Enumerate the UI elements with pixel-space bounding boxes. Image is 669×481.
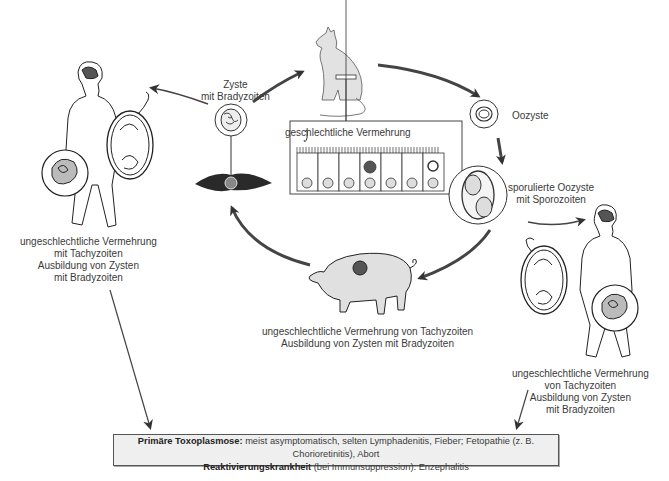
cyst-label: Zyste mit Bradyzoiten (201, 79, 270, 103)
pig-icon (309, 253, 416, 314)
tissue-cyst-icon (215, 104, 247, 175)
cyst-label-line1: Zyste (201, 79, 270, 91)
human-right-line4: mit Bradyzoiten (512, 404, 649, 416)
arrow-pig-to-muscle (232, 208, 310, 265)
cat-icon (316, 0, 365, 121)
muscle-cell-icon (195, 174, 272, 192)
arrow-sporulated-to-pig (420, 230, 490, 278)
human-right-label: ungeschlechtliche Vermehrung von Tachyzo… (512, 368, 649, 416)
clinical-summary-box: Primäre Toxoplasmose: meist asymptomatis… (113, 434, 559, 466)
arrow-cyst-to-human-left (152, 88, 208, 104)
cyst-label-line2: mit Bradyzoiten (201, 91, 270, 103)
human-left-line1: ungeschlechtliche Vermehrung (20, 236, 157, 248)
human-right-icon (521, 205, 638, 357)
arrow-sporulated-to-human-right (528, 220, 583, 225)
human-left-line2: mit Tachyzoiten (20, 248, 157, 260)
pig-label: ungeschlechtliche Vermehrung von Tachyzo… (262, 326, 473, 350)
summary-line1: Primäre Toxoplasmose: meist asymptomatis… (114, 435, 558, 461)
human-right-line1: ungeschlechtliche Vermehrung (512, 368, 649, 380)
sporulated-oocyst-label: sporulierte Oozyste mit Sporozoiten (508, 182, 594, 206)
arrow-cat-to-oocyst (378, 65, 478, 96)
arrow-human-left-to-summary (110, 290, 150, 427)
arrow-oocyst-to-sporulated (498, 138, 502, 162)
human-left-line4: mit Bradyzoiten (20, 272, 157, 284)
sporulated-label-line1: sporulierte Oozyste (508, 182, 594, 194)
sporulated-label-line2: mit Sporozoiten (508, 194, 594, 206)
reactivation-text: (bei Immunsuppression): Enzephalitis (311, 462, 469, 472)
oocyst-icon (470, 100, 498, 128)
human-right-line3: Ausbildung von Zysten (512, 392, 649, 404)
sporulated-oocyst-icon (449, 166, 507, 224)
pig-label-line1: ungeschlechtliche Vermehrung von Tachyzo… (262, 326, 473, 338)
summary-line2: Reaktivierungskrankheit (bei Immunsuppre… (114, 461, 558, 474)
oocyst-label: Oozyste (512, 110, 549, 122)
human-left-icon (42, 62, 153, 227)
primary-toxoplasmosis-heading: Primäre Toxoplasmose: (138, 436, 243, 446)
human-left-label: ungeschlechtliche Vermehrung mit Tachyzo… (20, 236, 157, 284)
human-left-line3: Ausbildung von Zysten (20, 260, 157, 272)
primary-toxoplasmosis-text: meist asymptomatisch, selten Lymphadenit… (243, 436, 535, 459)
human-right-line2: von Tachyzoiten (512, 380, 649, 392)
pig-label-line2: Ausbildung von Zysten mit Bradyzoiten (262, 338, 473, 350)
sexual-reproduction-label: geschlechtliche Vermehrung (285, 127, 411, 138)
reactivation-heading: Reaktivierungskrankheit (203, 462, 311, 472)
